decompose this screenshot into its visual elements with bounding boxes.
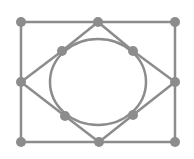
edge xyxy=(65,116,99,142)
edge xyxy=(21,51,62,82)
graph-diagram xyxy=(0,0,194,159)
node-inner-bottom-left xyxy=(60,111,70,121)
node-bottom-left xyxy=(16,137,26,147)
edge xyxy=(133,51,175,82)
node-inner-bottom-right xyxy=(128,110,138,120)
edge xyxy=(62,22,98,51)
node-mid-left xyxy=(16,77,26,87)
edge xyxy=(133,82,175,115)
node-bottom-right xyxy=(170,137,180,147)
node-bottom-mid xyxy=(94,137,104,147)
edge xyxy=(99,115,133,142)
node-inner-top-right xyxy=(128,46,138,56)
node-mid-right xyxy=(170,77,180,87)
nodes xyxy=(16,17,180,147)
edge xyxy=(21,82,65,116)
node-top-right xyxy=(170,17,180,27)
node-top-left xyxy=(16,17,26,27)
node-inner-top-left xyxy=(57,46,67,56)
node-top-mid xyxy=(93,17,103,27)
edge xyxy=(98,22,133,51)
